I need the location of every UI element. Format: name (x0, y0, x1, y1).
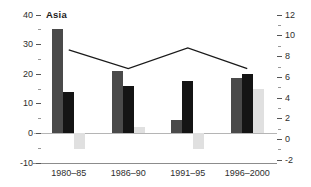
left-axis-tick-label: 20 (23, 69, 33, 79)
left-axis-tick-label: 10 (23, 98, 33, 108)
right-axis-tick-label: 12 (285, 10, 295, 20)
dark-gray-bars-bar (171, 120, 182, 133)
black-bars-bar (242, 74, 253, 133)
right-axis-tick-label: 10 (285, 30, 295, 40)
dark-gray-bars-bar (52, 29, 63, 133)
chart-plot-canvas: 403020100-10121086420-21980–851986–90199… (0, 0, 311, 187)
trend-line (69, 48, 248, 69)
right-axis-tick-label: 6 (285, 72, 290, 82)
right-axis: 121086420-2 (277, 10, 295, 165)
asia-combo-chart: Asia 403020100-10121086420-21980–851986–… (0, 0, 311, 187)
black-bars-bar (123, 86, 134, 133)
light-gray-bars-bar (193, 133, 204, 149)
light-gray-bars-bar (253, 89, 264, 133)
bar-groups (52, 29, 264, 149)
black-bars-bar (63, 92, 74, 133)
category-label: 1986–90 (111, 168, 146, 178)
left-axis: 403020100-10 (20, 10, 41, 168)
right-axis-tick-label: 4 (285, 93, 290, 103)
category-label: 1991–95 (170, 168, 205, 178)
dark-gray-bars-bar (112, 71, 123, 133)
right-axis-tick-label: 0 (285, 134, 290, 144)
right-axis-tick-label: 8 (285, 51, 290, 61)
category-label: 1980–85 (51, 168, 86, 178)
left-axis-tick-label: 40 (23, 10, 33, 20)
light-gray-bars-bar (74, 133, 85, 149)
right-axis-tick-label: 2 (285, 113, 290, 123)
light-gray-bars-bar (134, 127, 145, 133)
gridlines (33, 134, 277, 164)
category-label: 1996–2000 (225, 168, 270, 178)
right-axis-tick-label: -2 (285, 155, 293, 165)
trend-line-path (69, 48, 248, 69)
black-bars-bar (182, 81, 193, 133)
left-axis-tick-label: 30 (23, 39, 33, 49)
left-axis-tick-label: -10 (20, 158, 33, 168)
x-axis-labels: 1980–851986–901991–951996–2000 (51, 168, 270, 178)
left-axis-tick-label: 0 (28, 128, 33, 138)
dark-gray-bars-bar (231, 78, 242, 133)
